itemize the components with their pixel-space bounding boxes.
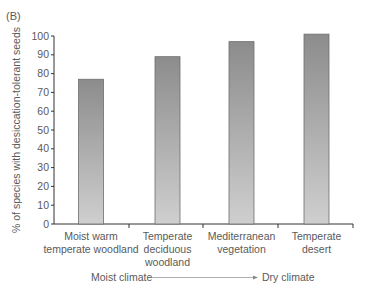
y-tick-label: 40 bbox=[37, 142, 49, 154]
x-tick-label-line: Mediterranean bbox=[208, 230, 276, 242]
x-tick-label-line: Temperate bbox=[292, 230, 342, 242]
bar bbox=[79, 79, 104, 224]
y-tick-label: 60 bbox=[37, 105, 49, 117]
x-tick-label-line: deciduous bbox=[144, 243, 192, 255]
x-tick-label: Moist warmtemperate woodland bbox=[43, 230, 138, 255]
y-tick-label: 10 bbox=[37, 199, 49, 211]
bar bbox=[304, 34, 329, 224]
x-tick-label: Mediterraneanvegetation bbox=[208, 230, 276, 255]
y-axis-label: % of species with desiccation-tolerant s… bbox=[10, 27, 22, 233]
x-tick-label: Temperatedesert bbox=[292, 230, 342, 255]
panel-label: (B) bbox=[6, 10, 21, 22]
y-tick-label: 50 bbox=[37, 124, 49, 136]
y-tick-label: 80 bbox=[37, 67, 49, 79]
x-tick-label: Temperatedeciduouswoodland bbox=[143, 230, 193, 268]
y-tick-label: 100 bbox=[31, 30, 49, 42]
y-tick-label: 20 bbox=[37, 180, 49, 192]
y-tick-label: 70 bbox=[37, 86, 49, 98]
x-tick-label-line: vegetation bbox=[217, 243, 266, 255]
x-tick-labels: Moist warmtemperate woodlandTemperatedec… bbox=[43, 230, 341, 268]
bar bbox=[155, 57, 180, 224]
bars bbox=[79, 34, 330, 224]
y-tick-label: 30 bbox=[37, 161, 49, 173]
x-tick-label-line: Moist warm bbox=[64, 230, 118, 242]
bar bbox=[229, 42, 254, 224]
x-tick-label-line: desert bbox=[302, 243, 331, 255]
y-tick-label: 90 bbox=[37, 48, 49, 60]
climate-gradient-annotation: Moist climate Dry climate bbox=[91, 271, 315, 283]
x-tick-label-line: temperate woodland bbox=[43, 243, 138, 255]
gradient-arrow-head bbox=[253, 276, 258, 280]
y-tick-label: 0 bbox=[43, 218, 49, 230]
x-tick-label-line: woodland bbox=[144, 256, 190, 268]
bar-chart: (B) % of species with desiccation-tolera… bbox=[0, 0, 366, 292]
gradient-to-label: Dry climate bbox=[262, 271, 315, 283]
x-tick-label-line: Temperate bbox=[143, 230, 193, 242]
gradient-from-label: Moist climate bbox=[91, 271, 152, 283]
